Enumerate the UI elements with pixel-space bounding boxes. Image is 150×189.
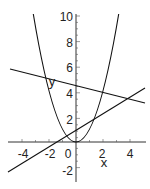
x-tick-label: 4	[127, 147, 134, 161]
decreasing-line	[10, 69, 145, 103]
y-axis-ticks	[76, 16, 80, 168]
y-tick-label: 4	[66, 87, 73, 101]
graph-plot: 10 8 6 4 2 -2 -4 -2 0 2 4 x y	[0, 0, 150, 189]
y-tick-label: 10	[60, 10, 74, 24]
y-tick-label: 6	[66, 61, 73, 75]
y-tick-label: 2	[66, 113, 73, 127]
y-tick-label: -2	[62, 164, 73, 178]
y-tick-label: 8	[66, 36, 73, 50]
x-tick-label: 0	[65, 147, 72, 161]
x-axis-label: x	[101, 155, 108, 170]
y-axis-label: y	[49, 74, 56, 89]
x-tick-label: -4	[18, 147, 29, 161]
